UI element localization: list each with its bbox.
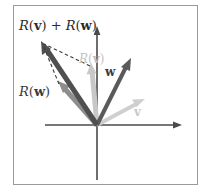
label-vector-v: v xyxy=(134,106,141,118)
label-rw-r: R xyxy=(19,84,29,99)
label-rv-close: ) xyxy=(100,52,105,66)
vector-rotation-figure: R(v) + R(w) R(w) R(v) w v xyxy=(0,0,211,196)
label-rw-close: ) xyxy=(45,84,50,99)
label-rv-v: v xyxy=(93,52,100,66)
x-axis-arrowhead xyxy=(173,122,182,129)
label-rv-r: R xyxy=(79,52,88,66)
label-sum-w: w xyxy=(81,18,92,33)
axes-group xyxy=(45,26,182,180)
label-vector-rv: R(v) xyxy=(79,53,104,65)
label-sum-r1: R xyxy=(19,18,29,33)
label-vector-sum: R(v) + R(w) xyxy=(19,19,97,32)
label-vector-w: w xyxy=(105,66,115,78)
label-rw-w: w xyxy=(34,84,45,99)
label-vector-rw: R(w) xyxy=(19,85,50,98)
label-sum-r2: R xyxy=(66,18,76,33)
label-sum-plus: + xyxy=(47,18,66,33)
vector-w-arrowhead xyxy=(121,58,131,71)
label-sum-close2: ) xyxy=(92,18,97,33)
